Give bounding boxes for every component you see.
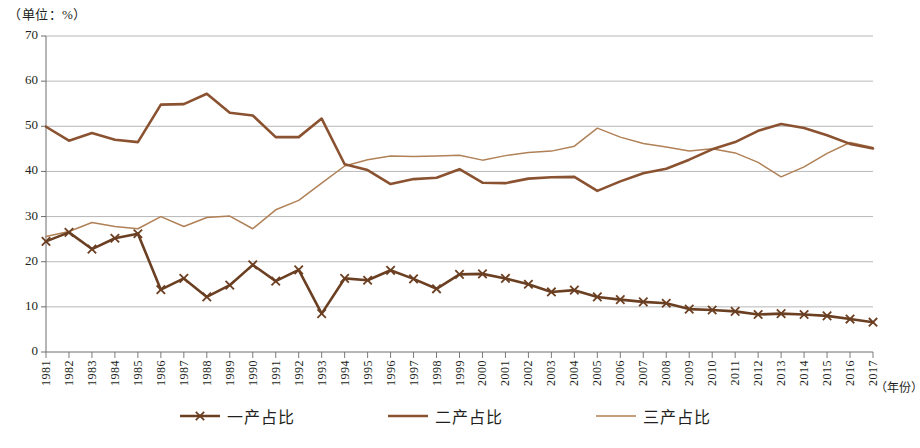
x-axis-tick-label: 1982 <box>62 360 77 386</box>
plot-background <box>46 36 873 352</box>
legend-item-2[interactable]: 二产占比 <box>387 404 503 428</box>
y-axis-tick-label: 50 <box>8 117 38 133</box>
x-axis-tick-label: 1981 <box>39 360 54 386</box>
x-axis-tick-label: 1988 <box>200 360 215 386</box>
x-axis-tick-label: 2006 <box>613 360 628 386</box>
x-axis-tick-label: 1999 <box>453 360 468 386</box>
x-axis-tick-label: 1991 <box>269 360 284 386</box>
x-axis-tick-label: 2015 <box>820 360 835 386</box>
legend-swatch-1 <box>179 408 221 424</box>
x-axis-tick-label: 1997 <box>407 360 422 386</box>
chart-legend: 一产占比二产占比三产占比 <box>0 404 890 428</box>
x-axis-tick-label: 2002 <box>521 360 536 386</box>
x-axis-tick-label: 1992 <box>292 360 307 386</box>
legend-swatch-3 <box>595 408 637 424</box>
x-axis-tick-label: 2001 <box>498 360 513 386</box>
y-axis-tick-label: 70 <box>8 27 38 43</box>
x-axis-tick-label: 1989 <box>223 360 238 386</box>
legend-item-1[interactable]: 一产占比 <box>179 404 295 428</box>
x-axis-tick-label: 2009 <box>682 360 697 386</box>
x-axis-tick-label: 2008 <box>659 360 674 386</box>
x-axis-tick-label: 2012 <box>751 360 766 386</box>
y-axis-tick-label: 0 <box>8 343 38 359</box>
legend-label-3: 三产占比 <box>643 404 711 428</box>
y-axis-tick-label: 30 <box>8 208 38 224</box>
x-axis-tick-label: 1985 <box>131 360 146 386</box>
x-axis-tick-label: 1996 <box>384 360 399 386</box>
x-axis-tick-label: 2005 <box>590 360 605 386</box>
y-axis-tick-label: 60 <box>8 72 38 88</box>
x-axis-tick-label: 2004 <box>567 360 582 386</box>
x-axis-tick-label: 2016 <box>843 360 858 386</box>
x-axis-tick-label: 1998 <box>430 360 445 386</box>
x-axis-tick-label: 2011 <box>728 360 743 386</box>
x-axis-tick-label: 2000 <box>475 360 490 386</box>
legend-item-3[interactable]: 三产占比 <box>595 404 711 428</box>
x-axis-tick-label: 1994 <box>338 360 353 386</box>
x-axis-caption: （年份） <box>875 378 920 396</box>
legend-label-2: 二产占比 <box>435 404 503 428</box>
x-axis-tick-label: 1983 <box>85 360 100 386</box>
x-axis-tick-label: 1993 <box>315 360 330 386</box>
x-axis-tick-label: 1987 <box>177 360 192 386</box>
x-axis-tick-label: 2003 <box>544 360 559 386</box>
legend-swatch-2 <box>387 408 429 424</box>
legend-label-1: 一产占比 <box>227 404 295 428</box>
x-axis-tick-label: 2010 <box>705 360 720 386</box>
y-axis-tick-label: 20 <box>8 253 38 269</box>
x-axis-tick-label: 1986 <box>154 360 169 386</box>
x-axis-tick-label: 1984 <box>108 360 123 386</box>
x-axis-tick-label: 2007 <box>636 360 651 386</box>
x-axis-tick-label: 2014 <box>797 360 812 386</box>
x-axis-tick-label: 1995 <box>361 360 376 386</box>
y-axis-tick-label: 10 <box>8 298 38 314</box>
y-axis-tick-label: 40 <box>8 162 38 178</box>
x-axis-tick-label: 1990 <box>246 360 261 386</box>
x-axis-tick-label: 2013 <box>774 360 789 386</box>
